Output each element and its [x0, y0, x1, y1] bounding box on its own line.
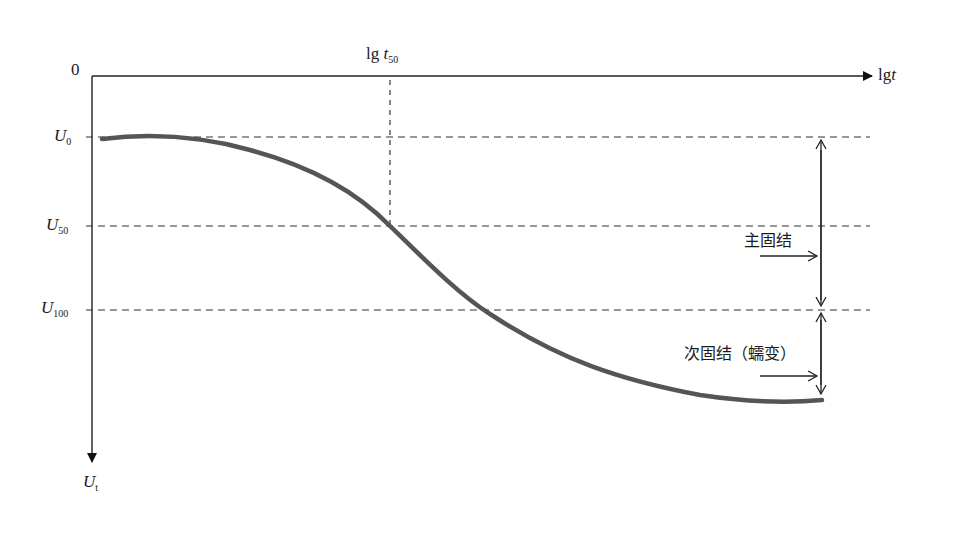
- u100-label-sub: 100: [53, 308, 68, 319]
- u0-label: U0: [54, 127, 71, 144]
- x-axis-label-var: t: [891, 65, 896, 84]
- consolidation-diagram: [0, 0, 960, 533]
- x-axis-label-prefix: lg: [878, 65, 891, 84]
- ut-label-var: U: [83, 472, 95, 491]
- u0-label-sub: 0: [66, 136, 71, 147]
- u50-label-var: U: [46, 215, 58, 234]
- u50-label-sub: 50: [58, 225, 68, 236]
- t50-label: lg t50: [366, 45, 398, 62]
- primary-consolidation-label: 主固结: [744, 233, 792, 249]
- u0-label-var: U: [54, 126, 66, 145]
- u50-label: U50: [46, 216, 68, 233]
- t50-label-sub: 50: [388, 54, 398, 65]
- ut-label: Ut: [83, 473, 98, 490]
- u100-label: U100: [41, 299, 68, 316]
- u100-label-var: U: [41, 298, 53, 317]
- origin-label: 0: [71, 61, 80, 78]
- x-axis-label: lgt: [878, 66, 896, 83]
- ut-label-sub: t: [95, 482, 98, 493]
- t50-label-prefix: lg: [366, 44, 383, 63]
- secondary-consolidation-label: 次固结（蠕变）: [684, 346, 796, 362]
